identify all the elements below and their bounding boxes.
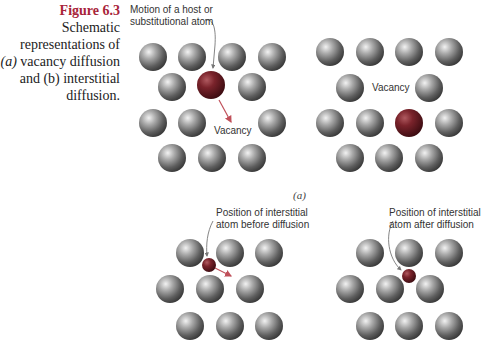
host-atom xyxy=(176,239,204,267)
host-atom xyxy=(178,109,206,137)
host-atom xyxy=(435,38,463,66)
host-atom xyxy=(356,312,384,340)
host-atom xyxy=(356,38,384,66)
host-atom xyxy=(238,144,266,172)
interstitial-lattice-after xyxy=(336,221,463,340)
host-atom xyxy=(255,239,283,267)
host-atom xyxy=(178,43,206,71)
interstitial-before-label: Position of interstitial atom before dif… xyxy=(216,207,309,231)
host-atom xyxy=(196,275,224,303)
host-atom xyxy=(316,109,344,137)
host-atom xyxy=(158,144,186,172)
host-atom xyxy=(176,312,204,340)
motion-arrow xyxy=(215,268,231,276)
host-atom xyxy=(198,144,226,172)
host-atom xyxy=(395,312,423,340)
host-atom xyxy=(216,312,244,340)
interstitial-atom xyxy=(202,258,216,272)
host-atom xyxy=(316,38,344,66)
host-atom xyxy=(216,239,244,267)
interstitial-label-line: Position of interstitial xyxy=(216,207,309,219)
host-atom xyxy=(156,275,184,303)
host-atom xyxy=(139,109,167,137)
host-atom xyxy=(435,239,463,267)
host-atom xyxy=(139,43,167,71)
host-atom xyxy=(356,109,384,137)
host-atom xyxy=(395,239,423,267)
motion-label: Motion of a host or substitutional atom xyxy=(130,4,213,28)
host-atom xyxy=(258,43,286,71)
vacancy-lattice-after xyxy=(316,38,463,172)
host-atom xyxy=(435,312,463,340)
motion-arrow xyxy=(219,100,231,122)
interstitial-label-line: atom before diffusion xyxy=(216,219,309,231)
host-atom xyxy=(415,144,443,172)
host-atom xyxy=(336,74,364,102)
interstitial-lattice-before xyxy=(156,221,283,340)
interstitial-after-label: Position of interstitial atom after diff… xyxy=(389,207,481,231)
vacancy-label-before: Vacancy xyxy=(214,125,252,137)
host-atom xyxy=(258,109,286,137)
diffusing-atom xyxy=(395,109,423,137)
motion-label-line: Motion of a host or xyxy=(130,4,213,16)
diffusing-atom xyxy=(197,71,225,99)
diffusion-diagram xyxy=(0,0,494,357)
host-atom xyxy=(336,275,364,303)
host-atom xyxy=(238,73,266,101)
host-atom xyxy=(218,43,246,71)
motion-label-line: substitutional atom xyxy=(130,16,213,28)
host-atom xyxy=(376,275,404,303)
host-atom xyxy=(435,109,463,137)
host-atom xyxy=(416,275,444,303)
host-atom xyxy=(395,38,423,66)
host-atom xyxy=(336,144,364,172)
host-atom xyxy=(158,73,186,101)
vacancy-label-after: Vacancy xyxy=(372,82,410,94)
interstitial-label-line: Position of interstitial xyxy=(389,207,481,219)
host-atom xyxy=(255,312,283,340)
vacancy-lattice-before xyxy=(139,20,286,172)
panel-a-label: (a) xyxy=(293,189,306,201)
host-atom xyxy=(375,144,403,172)
host-atom xyxy=(415,74,443,102)
leader-line xyxy=(207,221,213,256)
host-atom xyxy=(236,275,264,303)
interstitial-label-line: atom after diffusion xyxy=(389,219,481,231)
host-atom xyxy=(356,239,384,267)
interstitial-atom xyxy=(402,269,416,283)
